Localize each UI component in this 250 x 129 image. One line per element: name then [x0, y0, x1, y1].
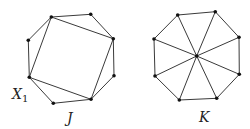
graph-edge [91, 76, 114, 100]
graph-edge [29, 77, 91, 99]
graph-edge [154, 15, 178, 39]
graph-edge [91, 39, 113, 100]
graph-edge [51, 17, 113, 39]
graph-k-label: K [198, 109, 211, 125]
graph-j-label: J [64, 110, 74, 126]
graph-vertex [28, 76, 32, 80]
graph-vertex [52, 102, 56, 106]
spoke-edge [197, 56, 217, 98]
graph-edge [155, 76, 179, 100]
graph-j [27, 13, 116, 106]
graph-edge [53, 99, 91, 103]
graph-edge [28, 40, 29, 77]
graph-edge [29, 17, 51, 77]
diagram-canvas: J K X 1 [0, 0, 250, 129]
graph-edge [113, 39, 114, 76]
graph-edge [217, 74, 240, 98]
graph-vertex [152, 37, 156, 41]
center-vertex [195, 54, 199, 58]
graph-edge [51, 14, 90, 17]
graph-vertex [238, 73, 242, 77]
graph-vertex [89, 98, 93, 102]
graph-vertex [89, 13, 93, 17]
graph-edge [215, 12, 239, 38]
graph-vertex [112, 74, 116, 78]
graph-vertex [214, 10, 218, 14]
graph-vertex [27, 39, 31, 43]
graph-vertex [153, 74, 157, 78]
vertex-x1-subscript: 1 [22, 93, 28, 104]
graph-vertex [112, 37, 116, 41]
graph-k [152, 10, 241, 102]
graph-edge [179, 98, 216, 100]
graph-vertex [237, 36, 241, 40]
spoke-edge [197, 56, 240, 74]
graph-edge [178, 12, 216, 15]
graph-edge [28, 17, 51, 40]
graph-vertex [215, 97, 219, 101]
graph-edge [154, 39, 155, 76]
graph-vertex [50, 15, 54, 19]
graph-vertex [178, 98, 182, 102]
graph-vertex [176, 13, 180, 17]
